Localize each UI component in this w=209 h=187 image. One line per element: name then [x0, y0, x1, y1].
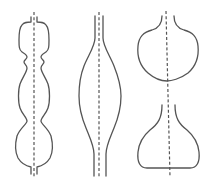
left-profile: [16, 12, 53, 178]
middle-profile-right-wall: [103, 16, 121, 176]
right-symmetry-axis: [166, 11, 170, 177]
left-profile-right-wall: [37, 17, 52, 174]
profiles-diagram: [0, 0, 209, 187]
left-profile-left-wall: [16, 17, 31, 174]
right-profile: [138, 11, 199, 177]
right-upper-bulb: [138, 16, 198, 81]
middle-profile: [79, 12, 121, 178]
middle-profile-left-wall: [79, 16, 95, 176]
